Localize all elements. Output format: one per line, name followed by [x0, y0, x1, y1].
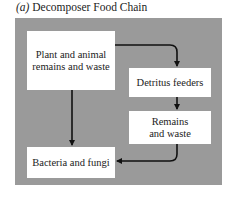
arrows-layer	[0, 0, 232, 197]
arrow-plant-to-detritus	[115, 45, 177, 66]
arrow-remains-to-bacteria	[117, 144, 177, 161]
